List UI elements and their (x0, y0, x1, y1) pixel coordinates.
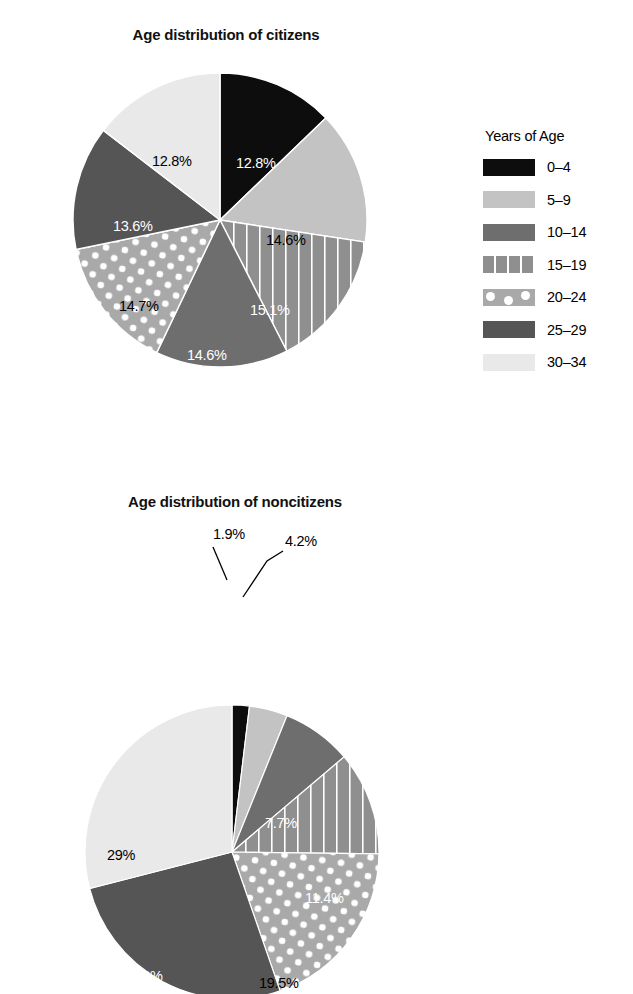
legend-swatch-30-34 (483, 354, 535, 371)
pct-label-citizens-5-9: 14.6% (266, 232, 306, 248)
pct-label-citizens-20-24: 14.7% (119, 298, 159, 314)
legend-item-5-9[interactable]: 5–9 (483, 188, 586, 212)
pct-label-noncitizens-30-34: 29% (107, 847, 135, 863)
leader-lines-noncitizens (195, 535, 325, 607)
pie-chart-citizens: 12.8% 14.6% 15.1% 14.6% 14.7% 13.6% 12.8… (70, 70, 370, 370)
pie-chart-noncitizens: 7.7% 11.4% 19.5% 26.3% 29% (82, 702, 382, 994)
pct-label-citizens-0-4: 12.8% (236, 155, 276, 171)
legend-label-20-24: 20–24 (547, 289, 586, 305)
pct-label-noncitizens-10-14: 7.7% (265, 815, 297, 831)
legend-item-20-24[interactable]: 20–24 (483, 285, 586, 309)
pct-label-citizens-25-29: 13.6% (113, 218, 153, 234)
pct-label-citizens-10-14: 14.6% (187, 347, 227, 363)
legend-swatch-20-24 (483, 289, 535, 306)
legend-item-15-19[interactable]: 15–19 (483, 253, 586, 277)
legend-swatch-15-19 (483, 256, 535, 273)
pct-label-citizens-15-19: 15.1% (250, 302, 290, 318)
legend-item-25-29[interactable]: 25–29 (483, 318, 586, 342)
legend-swatch-10-14 (483, 224, 535, 241)
legend-label-0-4: 0–4 (547, 159, 571, 175)
legend-label-5-9: 5–9 (547, 192, 571, 208)
legend-citizens: Years of Age 0–4 5–9 10–14 15–19 20–24 (483, 128, 586, 383)
chart-title-citizens: Age distribution of citizens (0, 26, 452, 43)
chart-noncitizens: Age distribution of noncitizens 1.9% 4.2… (0, 480, 633, 994)
legend-label-10-14: 10–14 (547, 224, 586, 240)
legend-label-30-34: 30–34 (547, 354, 586, 370)
legend-swatch-0-4 (483, 159, 535, 176)
chart-title-noncitizens: Age distribution of noncitizens (0, 493, 470, 510)
pct-label-noncitizens-15-19: 11.4% (305, 890, 344, 906)
legend-swatch-5-9 (483, 191, 535, 208)
pct-label-noncitizens-20-24: 19.5% (259, 975, 299, 991)
legend-title: Years of Age (485, 128, 586, 144)
legend-item-0-4[interactable]: 0–4 (483, 155, 586, 179)
legend-swatch-25-29 (483, 321, 535, 338)
legend-label-15-19: 15–19 (547, 257, 586, 273)
pct-label-noncitizens-25-29: 26.3% (123, 968, 163, 984)
legend-item-10-14[interactable]: 10–14 (483, 220, 586, 244)
legend-label-25-29: 25–29 (547, 322, 586, 338)
pct-label-citizens-30-34: 12.8% (152, 153, 192, 169)
chart-citizens: Age distribution of citizens (0, 0, 633, 480)
legend-item-30-34[interactable]: 30–34 (483, 350, 586, 374)
